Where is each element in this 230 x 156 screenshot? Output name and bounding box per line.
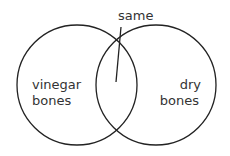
right-set-label-line2: bones xyxy=(160,93,199,108)
left-set-label-line2: bones xyxy=(32,93,71,108)
intersection-label: same xyxy=(118,8,153,23)
left-set-label-line1: vinegar xyxy=(32,77,82,92)
right-set-label-line1: dry xyxy=(180,77,202,92)
intersection-pointer-line xyxy=(116,27,121,82)
venn-diagram: same vinegar bones dry bones xyxy=(0,0,230,156)
